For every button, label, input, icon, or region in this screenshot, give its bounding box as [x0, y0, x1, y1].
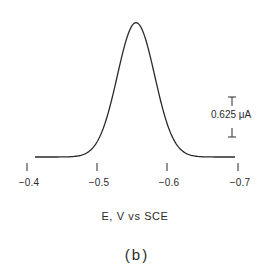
x-tick-label: −0.4: [19, 177, 40, 188]
x-axis-ticks: [27, 163, 238, 171]
voltammogram-plot: [0, 0, 272, 279]
x-tick-label: −0.5: [89, 177, 110, 188]
figure-caption: (b): [125, 246, 149, 263]
x-axis-label: E, V vs SCE: [101, 210, 168, 222]
scale-bar-label: 0.625 μA: [211, 109, 251, 120]
peak-curve: [35, 23, 235, 157]
x-tick-label: −0.7: [230, 177, 251, 188]
x-tick-label: −0.6: [159, 177, 180, 188]
